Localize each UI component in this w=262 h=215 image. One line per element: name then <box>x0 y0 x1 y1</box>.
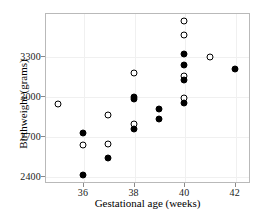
scatter-plot-figure: 363840422400270030003300 Gestational age… <box>0 0 262 215</box>
plot-area <box>45 13 250 183</box>
gridline-horizontal <box>46 137 249 138</box>
data-point-filled <box>181 62 188 69</box>
data-point-open <box>54 101 61 108</box>
data-point-open <box>181 18 188 25</box>
data-point-open <box>206 54 213 61</box>
data-point-open <box>105 141 112 148</box>
data-point-open <box>79 141 86 148</box>
y-axis-label: Birthweight (grams) <box>17 19 29 189</box>
gridline-horizontal <box>46 177 249 178</box>
x-axis-label: Gestational age (weeks) <box>45 197 250 209</box>
data-point-filled <box>181 76 188 83</box>
data-point-filled <box>181 99 188 106</box>
data-point-open <box>130 70 137 77</box>
gridline-horizontal <box>46 97 249 98</box>
data-point-filled <box>155 106 162 113</box>
data-point-filled <box>181 51 188 58</box>
data-point-filled <box>155 115 162 122</box>
y-axis-tick <box>41 56 45 57</box>
data-point-filled <box>79 130 86 137</box>
gridline-vertical <box>236 14 237 182</box>
data-point-filled <box>105 154 112 161</box>
gridline-vertical <box>84 14 85 182</box>
gridline-horizontal <box>46 57 249 58</box>
data-point-filled <box>130 96 137 103</box>
y-axis-tick <box>41 136 45 137</box>
data-point-open <box>105 111 112 118</box>
data-point-filled <box>130 126 137 133</box>
y-axis-tick <box>41 96 45 97</box>
data-point-open <box>181 32 188 39</box>
y-axis-tick <box>41 176 45 177</box>
data-point-filled <box>79 171 86 178</box>
data-point-filled <box>231 66 238 73</box>
